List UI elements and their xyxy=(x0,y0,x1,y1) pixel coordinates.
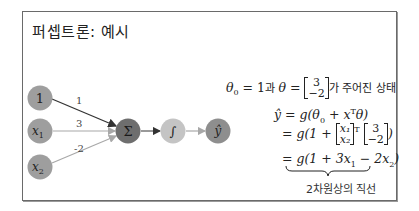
equation-matrix-form: = g(1 + x₁x₂T 3−2) xyxy=(282,123,393,145)
weight-label-w1: 3 xyxy=(76,118,82,129)
theta-vector: 3−2 xyxy=(304,77,328,99)
weight-label-w0: 1 xyxy=(76,95,82,106)
weight-label-w2: -2 xyxy=(74,143,84,154)
equation-expanded: = g(1 + 3x1 − 2x2) xyxy=(282,151,399,169)
underbrace-caption: 2차원상의 직선 xyxy=(306,180,377,196)
equation-given: θ0 = 1과 θ = 3−2가 주어진 상태 xyxy=(226,77,396,99)
equation-yhat: ŷ = g(θ0 + xTθ) xyxy=(274,107,368,125)
x-vector: x₁x₂ xyxy=(336,123,355,145)
svg-text:Σ: Σ xyxy=(123,124,132,139)
svg-text:1: 1 xyxy=(36,91,44,106)
sigmoid-icon: ∫ xyxy=(170,124,177,139)
edge-bias-to-sum xyxy=(52,99,116,126)
weight-vector: 3−2 xyxy=(364,123,388,145)
svg-text:ŷ: ŷ xyxy=(214,124,222,138)
edge-x2-to-sum xyxy=(52,136,116,163)
